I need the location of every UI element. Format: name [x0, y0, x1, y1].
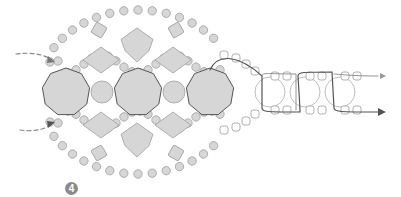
outline-seed-bead: [341, 106, 349, 114]
outline-seed-bead: [283, 72, 291, 80]
seed-bead: [92, 162, 100, 170]
diamond-bead: [155, 47, 191, 73]
link-ring: [325, 77, 355, 107]
outline-seed-bead: [341, 72, 349, 80]
outline-seed-bead: [353, 106, 361, 114]
diamond-bead: [121, 28, 153, 62]
seed-bead: [162, 9, 170, 17]
outline-seed-bead: [232, 123, 240, 131]
seed-bead: [106, 167, 114, 175]
outline-seed-bead: [318, 106, 326, 114]
outline-seed-bead: [220, 126, 228, 134]
seed-bead: [54, 57, 62, 65]
seed-bead: [106, 9, 114, 17]
beading-diagram: [0, 0, 401, 197]
seed-bead: [192, 63, 200, 71]
seed-bead: [134, 170, 142, 178]
seed-bead: [92, 13, 100, 21]
seed-bead: [134, 6, 142, 14]
diamond-bead: [155, 112, 191, 138]
square-bead: [91, 145, 107, 161]
seed-bead: [148, 169, 156, 177]
seed-bead: [148, 7, 156, 15]
outline-seed-bead: [306, 72, 314, 80]
seed-bead: [188, 19, 196, 27]
seed-bead: [54, 119, 62, 127]
bead-shapes: [42, 22, 233, 161]
outline-seed-bead: [251, 110, 259, 118]
large-octagon-bead: [186, 68, 233, 115]
seed-bead: [120, 113, 128, 121]
round-bead: [163, 81, 185, 103]
square-bead: [168, 145, 184, 161]
seed-bead: [68, 26, 76, 34]
seed-bead: [120, 169, 128, 177]
square-bead: [91, 22, 107, 38]
arrow-right-lower-icon: [378, 108, 386, 116]
large-octagon-bead: [42, 68, 89, 115]
link-ring: [290, 77, 320, 107]
seed-bead: [80, 157, 88, 165]
seed-bead: [175, 162, 183, 170]
square-bead: [168, 22, 184, 38]
diamond-bead: [83, 112, 119, 138]
seed-bead: [58, 142, 66, 150]
seed-bead: [175, 13, 183, 21]
seed-bead: [188, 157, 196, 165]
thread-path-dark: [210, 59, 378, 112]
seed-bead: [80, 19, 88, 27]
seed-bead: [199, 150, 207, 158]
outline-seed-bead: [283, 106, 291, 114]
seed-bead: [192, 113, 200, 121]
outline-seed-bead: [306, 106, 314, 114]
seed-bead: [199, 26, 207, 34]
large-octagon-bead: [114, 68, 161, 115]
outline-seed-bead: [271, 106, 279, 114]
arrow-right-upper-icon: [380, 73, 386, 79]
step-number-badge: 4: [65, 182, 78, 195]
seed-bead: [50, 132, 58, 140]
seed-bead: [120, 63, 128, 71]
seed-bead: [68, 150, 76, 158]
seed-bead: [58, 34, 66, 42]
diamond-bead: [121, 123, 153, 157]
outline-seed-bead: [242, 117, 250, 125]
link-ring: [255, 77, 285, 107]
seed-bead: [209, 142, 217, 150]
seed-bead: [120, 7, 128, 15]
outline-seed-bead: [318, 72, 326, 80]
diamond-bead: [83, 47, 119, 73]
outline-seed-bead: [220, 51, 228, 59]
seed-bead: [162, 167, 170, 175]
round-bead: [91, 81, 113, 103]
seed-bead: [50, 44, 58, 52]
seed-bead: [209, 34, 217, 42]
